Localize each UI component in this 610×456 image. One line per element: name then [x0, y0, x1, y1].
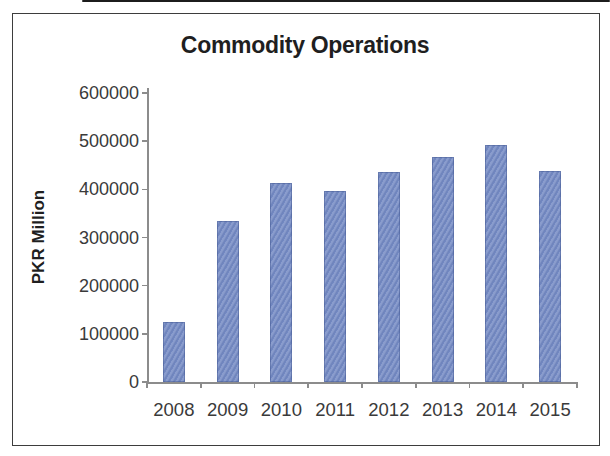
y-tick-400000	[142, 189, 148, 191]
bar-2014	[485, 145, 507, 382]
y-tick-label-100000: 100000	[40, 324, 139, 344]
y-axis-line	[147, 88, 149, 383]
x-axis-label-2014: 2014	[470, 399, 524, 421]
figure-page: Commodity Operations PKR Million 0100000…	[0, 0, 610, 456]
y-tick-500000	[142, 140, 148, 142]
x-axis-label-2011: 2011	[308, 399, 362, 421]
y-tick-label-300000: 300000	[40, 228, 139, 248]
bar-2011	[324, 191, 346, 382]
x-axis-label-2010: 2010	[255, 399, 309, 421]
bar-2012	[378, 172, 400, 382]
x-axis-label-2013: 2013	[416, 399, 470, 421]
y-tick-label-600000: 600000	[40, 83, 139, 103]
bar-2008	[163, 322, 185, 382]
x-axis-label-2008: 2008	[147, 399, 201, 421]
y-tick-label-0: 0	[40, 372, 139, 392]
x-tick-1	[200, 382, 202, 388]
x-axis-label-2015: 2015	[523, 399, 577, 421]
bar-2010	[270, 183, 292, 382]
y-tick-label-500000: 500000	[40, 131, 139, 151]
y-tick-label-200000: 200000	[40, 276, 139, 296]
y-tick-300000	[142, 237, 148, 239]
bar-2015	[539, 171, 561, 382]
x-tick-7	[522, 382, 524, 388]
x-tick-0	[146, 382, 148, 388]
y-tick-100000	[142, 333, 148, 335]
x-tick-6	[469, 382, 471, 388]
x-tick-8	[576, 382, 578, 388]
chart-title: Commodity Operations	[12, 32, 598, 59]
scan-artifact-line	[82, 0, 610, 2]
y-tick-600000	[142, 92, 148, 94]
x-tick-2	[254, 382, 256, 388]
x-tick-3	[307, 382, 309, 388]
bar-2013	[432, 157, 454, 382]
x-tick-5	[415, 382, 417, 388]
x-axis-label-2009: 2009	[201, 399, 255, 421]
y-tick-200000	[142, 285, 148, 287]
x-axis-label-2012: 2012	[362, 399, 416, 421]
bar-2009	[217, 221, 239, 382]
x-tick-4	[361, 382, 363, 388]
y-tick-label-400000: 400000	[40, 179, 139, 199]
